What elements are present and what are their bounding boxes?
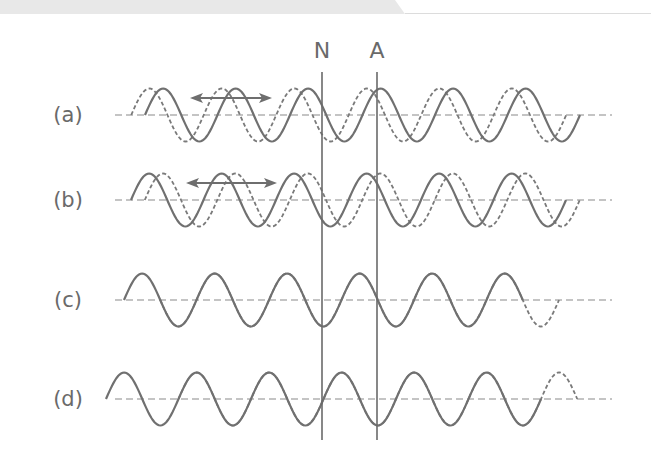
wave-row: (d) bbox=[53, 373, 612, 426]
antinode-label: A bbox=[369, 38, 384, 63]
wave-row: (a) bbox=[53, 89, 612, 142]
standing-wave-diagram: N A (a)(b)(c)(d) bbox=[0, 0, 651, 454]
row-label: (a) bbox=[53, 103, 82, 127]
node-label: N bbox=[314, 38, 330, 63]
wave-row: (c) bbox=[54, 274, 612, 327]
row-label: (b) bbox=[53, 188, 83, 212]
wave-row: (b) bbox=[53, 174, 612, 227]
row-label: (c) bbox=[54, 288, 82, 312]
wave-rows: (a)(b)(c)(d) bbox=[53, 89, 612, 426]
row-label: (d) bbox=[53, 387, 83, 411]
